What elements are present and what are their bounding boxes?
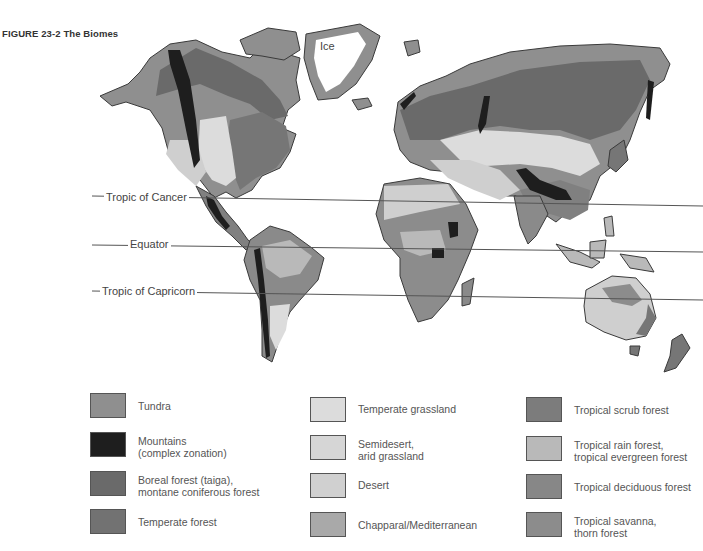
legend-label: Temperate forest bbox=[138, 516, 217, 528]
legend-item-tropical-deciduous-forest: Tropical deciduous forest bbox=[526, 474, 703, 506]
borneo bbox=[590, 240, 606, 258]
legend-item-mountains: Mountains (complex zonation) bbox=[90, 432, 290, 464]
boreal-forest-swatch bbox=[90, 471, 126, 496]
tasmania bbox=[630, 346, 640, 356]
ice-label: Ice bbox=[318, 40, 337, 52]
legend-item-temperate-grassland: Temperate grassland bbox=[310, 397, 510, 429]
biome-legend: Tundra Mountains (complex zonation) Bore… bbox=[0, 385, 703, 551]
temperate-forest-swatch bbox=[90, 509, 126, 534]
legend-label: Mountains (complex zonation) bbox=[138, 435, 227, 459]
tropical-rain-forest-swatch bbox=[526, 436, 562, 461]
tropic-of-capricorn-label: Tropic of Capricorn bbox=[100, 285, 197, 297]
madagascar bbox=[462, 278, 474, 306]
legend-item-tropical-scrub-forest: Tropical scrub forest bbox=[526, 397, 703, 429]
legend-label: Tropical scrub forest bbox=[574, 404, 669, 416]
tropical-deciduous-forest-swatch bbox=[526, 474, 562, 499]
tropic-of-cancer-label: Tropic of Cancer bbox=[104, 191, 189, 203]
legend-label: Tundra bbox=[138, 400, 171, 412]
legend-label: Chapparal/Mediterranean bbox=[358, 519, 477, 531]
arctic-islands bbox=[240, 28, 300, 60]
chaparral-swatch bbox=[310, 512, 346, 537]
legend-item-semidesert: Semidesert, arid grassland bbox=[310, 435, 510, 467]
new-guinea bbox=[620, 254, 654, 272]
legend-item-tropical-rain-forest: Tropical rain forest, tropical evergreen… bbox=[526, 436, 703, 468]
legend-label: Tropical rain forest, tropical evergreen… bbox=[574, 439, 687, 463]
legend-item-tundra: Tundra bbox=[90, 393, 290, 425]
legend-item-tropical-savanna: Tropical savanna, thorn forest bbox=[526, 512, 703, 544]
legend-item-desert: Desert bbox=[310, 473, 510, 505]
legend-label: Boreal forest (taiga), montane coniferou… bbox=[138, 474, 259, 498]
legend-label: Semidesert, arid grassland bbox=[358, 438, 424, 462]
eurasia-taiga bbox=[400, 60, 650, 140]
legend-label: Desert bbox=[358, 479, 389, 491]
iceland bbox=[352, 98, 372, 110]
biome-world-map bbox=[0, 0, 703, 380]
desert-swatch bbox=[310, 473, 346, 498]
mountains-swatch bbox=[90, 432, 126, 457]
equator-label: Equator bbox=[128, 238, 171, 250]
svalbard bbox=[404, 40, 420, 56]
tropical-savanna-swatch bbox=[526, 512, 562, 537]
semidesert-swatch bbox=[310, 435, 346, 460]
philippines bbox=[604, 216, 614, 236]
central-america bbox=[196, 186, 256, 250]
tundra-swatch bbox=[90, 393, 126, 418]
legend-label: Tropical deciduous forest bbox=[574, 481, 691, 493]
legend-item-chaparral: Chapparal/Mediterranean bbox=[310, 512, 510, 544]
new-zealand bbox=[664, 334, 690, 372]
legend-item-temperate-forest: Temperate forest bbox=[90, 509, 290, 541]
legend-item-boreal-forest: Boreal forest (taiga), montane coniferou… bbox=[90, 471, 290, 503]
tropical-scrub-forest-swatch bbox=[526, 397, 562, 422]
legend-label: Temperate grassland bbox=[358, 403, 456, 415]
temperate-grassland-swatch bbox=[310, 397, 346, 422]
legend-label: Tropical savanna, thorn forest bbox=[574, 515, 657, 539]
